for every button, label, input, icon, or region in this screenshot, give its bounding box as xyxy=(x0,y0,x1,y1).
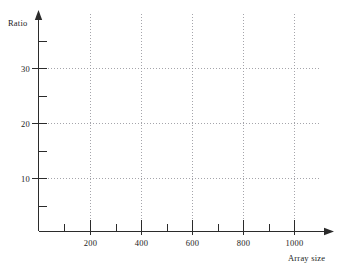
x-axis-arrow-icon xyxy=(324,228,334,235)
y-tick-label-20: 20 xyxy=(12,119,30,129)
x-axis-title: Array size xyxy=(288,253,325,263)
chart-figure: Ratio Array size 30 20 10 200 400 600 80… xyxy=(0,0,345,268)
plot-area xyxy=(0,0,345,268)
x-tick-label-400: 400 xyxy=(135,238,148,248)
horizontal-gridlines xyxy=(39,69,320,179)
y-axis xyxy=(35,10,42,231)
y-axis-title: Ratio xyxy=(8,18,27,28)
y-tick-label-30: 30 xyxy=(12,64,30,74)
x-axis xyxy=(39,228,335,235)
x-tick-label-600: 600 xyxy=(186,238,199,248)
x-tick-label-200: 200 xyxy=(84,238,97,248)
vertical-gridlines xyxy=(91,14,295,231)
x-tick-label-1000: 1000 xyxy=(286,238,304,248)
y-axis-ticks xyxy=(32,42,47,207)
x-tick-label-800: 800 xyxy=(237,238,250,248)
y-tick-label-10: 10 xyxy=(12,174,30,184)
y-axis-arrow-icon xyxy=(35,10,42,20)
x-axis-ticks xyxy=(65,220,295,235)
